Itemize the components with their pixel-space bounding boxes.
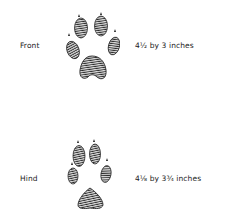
hind-label: Hind xyxy=(20,174,38,183)
front-label: Front xyxy=(20,41,39,50)
hind-size: 4⅛ by 3¾ inches xyxy=(135,174,201,183)
paw-print-hind-icon xyxy=(66,138,116,210)
front-size: 4½ by 3 inches xyxy=(135,41,194,50)
paw-print-front-icon xyxy=(64,12,120,82)
